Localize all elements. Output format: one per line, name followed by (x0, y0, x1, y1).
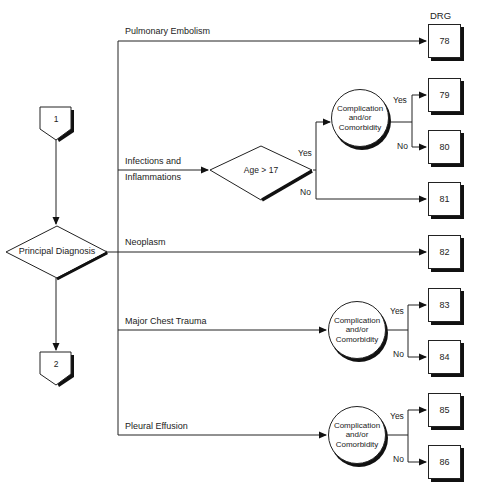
connector-1-shape (40, 107, 74, 142)
cc-decision-circle-pleural-effusion: Complication and/or Comorbidity (328, 406, 386, 464)
drg-header: DRG (430, 10, 451, 21)
cc-line1: Complication (334, 421, 380, 431)
branch-label-pleural-effusion: Pleural Effusion (125, 421, 188, 432)
cc-line3: Comorbidity (339, 123, 382, 133)
cc-line2: and/or (346, 325, 369, 335)
drg-box-79: 79 (428, 78, 461, 112)
branch-label-pulmonary-embolism: Pulmonary Embolism (125, 26, 210, 37)
drg-box-84: 84 (428, 340, 461, 374)
cc2-yes-label: Yes (390, 306, 404, 317)
connector-1-label: 1 (48, 114, 64, 124)
branch-label-major-chest-trauma: Major Chest Trauma (125, 316, 207, 327)
cc3-yes-label: Yes (390, 411, 404, 422)
age-condition-label: Age > 17 (225, 165, 297, 175)
principal-diagnosis-label: Principal Diagnosis (10, 246, 104, 256)
cc3-no-label: No (393, 454, 404, 465)
flowchart-lines (0, 0, 479, 485)
drg-box-82: 82 (428, 235, 461, 269)
drg-box-83: 83 (428, 288, 461, 322)
drg-box-81: 81 (428, 182, 461, 216)
cc2-no-label: No (393, 349, 404, 360)
drg-box-78: 78 (428, 24, 461, 58)
cc-line2: and/or (346, 430, 369, 440)
age-yes-label: Yes (298, 148, 312, 159)
cc-line1: Complication (337, 104, 383, 114)
cc-decision-circle-chest-trauma: Complication and/or Comorbidity (328, 301, 386, 359)
branch-label-infections-line1: Infections and (125, 156, 181, 167)
drg-box-80: 80 (428, 130, 461, 164)
drg-box-86: 86 (428, 445, 461, 479)
cc-line2: and/or (349, 113, 372, 123)
cc-line3: Comorbidity (336, 440, 379, 450)
cc1-yes-label: Yes (393, 95, 407, 106)
cc1-no-label: No (397, 141, 408, 152)
age-no-label: No (300, 187, 311, 198)
drg-box-85: 85 (428, 393, 461, 427)
cc-line3: Comorbidity (336, 335, 379, 345)
cc-decision-circle-infections: Complication and/or Comorbidity (331, 89, 389, 147)
branch-label-infections-line2: Inflammations (125, 172, 181, 183)
connector-2-label: 2 (48, 359, 64, 369)
branch-label-neoplasm: Neoplasm (125, 237, 166, 248)
connector-2-shape (40, 352, 74, 387)
cc-line1: Complication (334, 316, 380, 326)
